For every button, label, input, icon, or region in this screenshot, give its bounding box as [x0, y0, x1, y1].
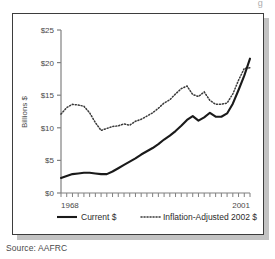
y-axis-tick-labels: $0$5$10$15$20$25: [41, 26, 55, 198]
y-tick-label: $20: [41, 59, 55, 68]
y-axis-title: Billions $: [20, 95, 29, 128]
line-chart-plot: $0$5$10$15$20$25 19682001 Billions $ Cur…: [13, 14, 262, 233]
chart-legend: Current $ Inflation-Adjusted 2002 $: [57, 212, 257, 222]
clipped-title-fragment: g: [0, 0, 275, 11]
chart-frame: $0$5$10$15$20$25 19682001 Billions $ Cur…: [12, 13, 264, 235]
y-tick-label: $25: [41, 26, 55, 35]
y-tick-label: $5: [45, 156, 54, 165]
x-axis-tick-labels: 19682001: [61, 201, 251, 210]
y-tick-label: $0: [45, 189, 54, 198]
x-tick-label: 1968: [61, 201, 79, 210]
legend-label-current: Current $: [81, 212, 117, 222]
x-tick-label: 2001: [232, 201, 250, 210]
figure-root: g $0$5$10$15$20$25 19682001 Billions $ C…: [0, 0, 275, 259]
source-note: Source: AAFRC: [6, 243, 67, 253]
x-axis-ticks: [61, 193, 250, 197]
series-line-current: [61, 59, 250, 178]
y-tick-label: $10: [41, 124, 55, 133]
series-line-inflation-adjusted: [61, 68, 250, 131]
legend-label-inflation-adjusted: Inflation-Adjusted 2002 $: [163, 212, 257, 222]
y-tick-label: $15: [41, 91, 55, 100]
